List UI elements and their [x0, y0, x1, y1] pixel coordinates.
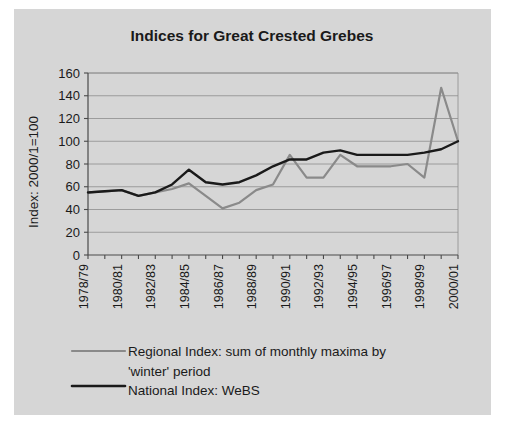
- x-tick-label: 1994/95: [346, 264, 360, 309]
- y-axis-title: Index: 2000/1=100: [26, 116, 41, 228]
- y-tick-label: 80: [66, 157, 80, 172]
- x-tick-label: 1984/85: [178, 264, 192, 309]
- y-tick-label: 160: [58, 66, 80, 81]
- x-tick-marks: [88, 255, 458, 259]
- series-line-regional: [88, 88, 458, 209]
- x-tick-label: 1982/83: [144, 264, 158, 309]
- y-tick-label: 20: [66, 225, 80, 240]
- y-tick-label: 60: [66, 179, 80, 194]
- x-tick-label: 1996/97: [380, 264, 394, 309]
- chart-title: Indices for Great Crested Grebes: [131, 27, 374, 44]
- x-tick-label: 2000/01: [447, 264, 461, 309]
- y-tick-label: 40: [66, 202, 80, 217]
- y-tick-label: 120: [58, 111, 80, 126]
- x-tick-label: 1988/89: [245, 264, 259, 309]
- chart-canvas: Indices for Great Crested Grebes Index: …: [14, 9, 491, 415]
- x-tick-label: 1980/81: [111, 264, 125, 309]
- x-tick-label: 1998/99: [413, 264, 427, 309]
- y-tick-label: 0: [73, 248, 80, 263]
- y-tick-label: 100: [58, 134, 80, 149]
- y-axis-tick-labels: 020406080100120140160: [58, 66, 80, 263]
- legend-label-national: National Index: WeBS: [128, 383, 260, 398]
- x-axis-tick-labels: 1978/791980/811982/831984/851986/871988/…: [77, 264, 461, 309]
- legend-label-regional-line2: 'winter' period: [128, 364, 210, 379]
- x-tick-label: 1978/79: [77, 264, 91, 309]
- y-tick-label: 140: [58, 88, 80, 103]
- chart-figure: Indices for Great Crested Grebes Index: …: [14, 9, 491, 415]
- x-tick-label: 1990/91: [279, 264, 293, 309]
- series-line-national: [88, 141, 458, 196]
- x-tick-label: 1992/93: [312, 264, 326, 309]
- legend-label-regional: Regional Index: sum of monthly maxima by: [128, 344, 386, 359]
- data-series: [88, 88, 458, 209]
- x-tick-label: 1986/87: [212, 264, 226, 309]
